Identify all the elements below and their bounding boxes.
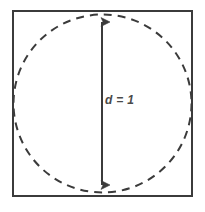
diameter-label: d = 1	[105, 93, 134, 107]
geometry-diagram: d = 1	[0, 0, 205, 212]
diagram-canvas	[0, 0, 205, 212]
